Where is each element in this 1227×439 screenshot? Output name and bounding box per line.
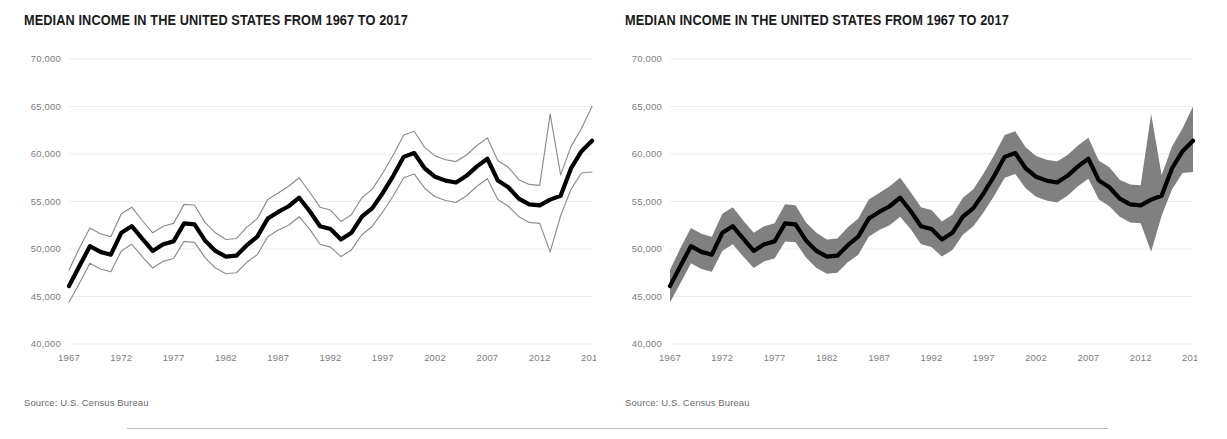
y-axis-tick-label: 55,000 [632,196,662,207]
x-axis-tick-label: 1967 [659,352,681,363]
plot-area-right: 40,00045,00050,00055,00060,00065,00070,0… [625,46,1197,376]
y-axis-tick-label: 70,000 [31,53,61,64]
y-axis-tick-label: 60,000 [632,148,662,159]
x-axis-tick-label: 1992 [921,352,943,363]
x-axis-tick-label: 2012 [529,352,551,363]
y-axis-tick-label: 50,000 [632,243,662,254]
y-axis-tick-label: 45,000 [632,291,662,302]
area-chart-right: 40,00045,00050,00055,00060,00065,00070,0… [625,46,1197,376]
y-axis-tick-label: 65,000 [31,101,61,112]
footer-divider [127,428,1108,429]
y-axis-tick-label: 70,000 [632,53,662,64]
x-axis-tick-label: 1967 [58,352,80,363]
line-chart-left: 40,00045,00050,00055,00060,00065,00070,0… [24,46,596,376]
x-axis-tick-label: 2012 [1130,352,1152,363]
x-axis-tick-label: 2002 [1025,352,1047,363]
x-axis-tick-label: 1982 [215,352,237,363]
page-title: MEDIAN INCOME IN THE UNITED STATES FROM … [24,12,408,28]
chart-panel-left: MEDIAN INCOME IN THE UNITED STATES FROM … [0,0,613,439]
charts-board: MEDIAN INCOME IN THE UNITED STATES FROM … [0,0,1227,439]
plot-area-left: 40,00045,00050,00055,00060,00065,00070,0… [24,46,596,376]
x-axis-tick-label: 2017 [1182,352,1197,363]
x-axis-tick-label: 1977 [163,352,185,363]
y-axis-tick-label: 40,000 [632,338,662,349]
source-note-left: Source: U.S. Census Bureau [24,397,149,408]
x-axis-tick-label: 2007 [476,352,498,363]
x-axis-tick-label: 1987 [868,352,890,363]
x-axis-tick-label: 1997 [372,352,394,363]
x-axis-tick-label: 2007 [1077,352,1099,363]
y-axis-tick-label: 60,000 [31,148,61,159]
y-axis-tick-label: 65,000 [632,101,662,112]
x-axis-tick-label: 1992 [320,352,342,363]
x-axis-tick-label: 1982 [816,352,838,363]
y-axis-tick-label: 50,000 [31,243,61,254]
x-axis-tick-label: 2002 [424,352,446,363]
y-axis-tick-label: 40,000 [31,338,61,349]
x-axis-tick-label: 1972 [110,352,132,363]
x-axis-tick-label: 1972 [711,352,733,363]
y-axis-tick-label: 45,000 [31,291,61,302]
x-axis-tick-label: 1997 [973,352,995,363]
x-axis-tick-label: 1977 [764,352,786,363]
x-axis-tick-label: 2017 [581,352,596,363]
confidence-band [670,107,1193,303]
median-line [69,141,592,286]
page-title-right: MEDIAN INCOME IN THE UNITED STATES FROM … [625,12,1009,28]
source-note-right: Source: U.S. Census Bureau [625,397,750,408]
x-axis-tick-label: 1987 [267,352,289,363]
y-axis-tick-label: 55,000 [31,196,61,207]
chart-panel-right: MEDIAN INCOME IN THE UNITED STATES FROM … [613,0,1226,439]
